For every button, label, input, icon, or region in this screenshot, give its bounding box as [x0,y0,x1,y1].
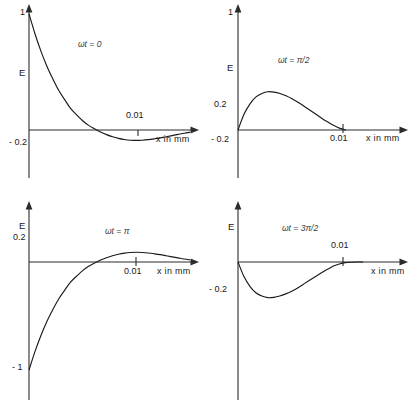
x-axis-arrowhead [191,127,200,134]
x-axis-label-2: x in mm [366,134,400,143]
y-axis-arrowhead [235,201,242,210]
plot-panel-omega-t-pi-over-2: 1 E 0.2 - 0.2 0.01 x in mm ωt = π/2 [206,0,412,185]
y-axis-arrowhead [235,4,242,13]
plot-panel-omega-t-3pi-over-2: E - 0.2 0.01 x in mm ωt = 3π/2 [206,185,412,414]
x-axis-arrowhead [191,259,200,266]
y-ticklabel-1-top: 1 [20,8,25,17]
axes-1 [26,4,199,178]
annotation-phase-4: ωt = 3π/2 [282,224,318,233]
y-ticklabel-3-bottom: - 1 [12,363,23,372]
x-axis-arrowhead [400,127,409,134]
plot-panel-omega-t-pi: E 0.2 - 1 0.01 x in mm ωt = π [0,185,206,414]
y-ticklabel-1-bottom: - 0.2 [9,138,27,147]
annotation-phase-2: ωt = π/2 [278,56,309,65]
y-ticklabel-2-mid: 0.2 [214,100,227,109]
y-ticklabel-3-top: 0.2 [13,233,26,242]
plot-panel-omega-t-0: 1 E - 0.2 0.01 x in mm ωt = 0 [0,0,206,185]
y-axis-arrowhead [26,201,33,210]
x-axis-label-4: x in mm [371,267,405,276]
y-axis-arrowhead [26,4,33,13]
axes-2 [235,4,408,178]
x-axis-arrowhead [400,259,409,266]
plot-canvas-3 [0,185,206,414]
x-axis-label-3: x in mm [157,267,191,276]
x-axis-label-1: x in mm [156,135,190,144]
x-ticklabel-2: 0.01 [330,134,348,143]
plot-canvas-2 [206,0,412,185]
curve-omega-t-pi-over-2 [238,92,346,130]
y-axis-label-2: E [227,63,233,73]
axes-4 [235,201,408,400]
plot-canvas-1 [0,0,206,185]
x-ticklabel-1: 0.01 [126,111,144,120]
x-ticklabel-3: 0.01 [124,267,142,276]
y-axis-label-1: E [19,68,25,78]
annotation-phase-1: ωt = 0 [78,40,101,49]
y-axis-label-3: E [19,221,25,231]
y-ticklabel-2-bottom: - 0.2 [211,135,229,144]
x-ticklabel-4: 0.01 [331,241,349,250]
y-axis-label-4: E [228,222,234,232]
plot-canvas-4 [206,185,412,414]
curve-omega-t-3pi-over-2 [238,262,363,298]
figure-container: 1 E - 0.2 0.01 x in mm ωt = 0 1 E 0.2 - … [0,0,412,414]
y-ticklabel-2-top: 1 [228,8,233,17]
annotation-phase-3: ωt = π [105,227,129,236]
curve-omega-t-0 [29,14,190,140]
y-ticklabel-4: - 0.2 [209,285,227,294]
